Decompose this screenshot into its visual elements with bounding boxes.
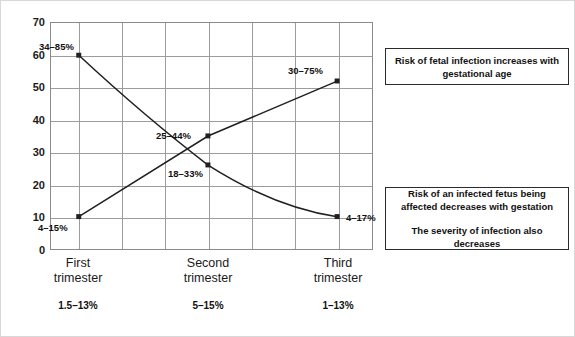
plot-area: 34–85% 25–44% 30–75% 4–15% 18–33% 4–17% xyxy=(50,22,373,250)
marker-rising-second xyxy=(205,133,210,138)
marker-declining-third xyxy=(335,214,340,219)
point-label-rising-first: 4–15% xyxy=(38,223,68,233)
x-category-second: Second trimester 5–15% xyxy=(143,256,273,311)
y-axis: 70 60 50 40 30 20 10 0 xyxy=(1,22,45,250)
annotation-bottom-text-2: The severity of infection also decreases xyxy=(392,224,562,250)
x-category-first-line2: trimester xyxy=(13,271,143,286)
point-label-rising-third: 30–75% xyxy=(288,66,323,76)
y-tick-70: 70 xyxy=(5,17,45,28)
x-category-first: First trimester 1.5–13% xyxy=(13,256,143,311)
point-label-declining-third: 4–17% xyxy=(346,213,376,223)
annotation-top-text: Risk of fetal infection increases with g… xyxy=(392,54,562,80)
point-label-declining-first: 34–85% xyxy=(39,42,74,52)
x-category-second-line2: trimester xyxy=(143,271,273,286)
y-tick-40: 40 xyxy=(5,115,45,126)
y-tick-20: 20 xyxy=(5,180,45,191)
marker-declining-second xyxy=(205,162,210,167)
x-category-third-line1: Third xyxy=(273,256,403,271)
point-label-declining-second: 18–33% xyxy=(168,169,203,179)
series-path-rising xyxy=(79,81,337,217)
y-tick-0: 0 xyxy=(5,245,45,256)
annotation-bottom-text-1: Risk of an infected fetus being affected… xyxy=(392,187,562,213)
x-category-second-line1: Second xyxy=(143,256,273,271)
x-axis: First trimester 1.5–13% Second trimester… xyxy=(50,256,373,331)
x-category-second-sub: 5–15% xyxy=(143,300,273,311)
series-canvas xyxy=(51,23,372,249)
x-category-first-line1: First xyxy=(13,256,143,271)
x-category-first-sub: 1.5–13% xyxy=(13,300,143,311)
x-category-third-sub: 1–13% xyxy=(273,300,403,311)
marker-declining-first xyxy=(76,53,81,58)
y-tick-30: 30 xyxy=(5,147,45,158)
marker-rising-first xyxy=(76,214,81,219)
annotation-box-top: Risk of fetal infection increases with g… xyxy=(385,48,569,85)
y-tick-50: 50 xyxy=(5,82,45,93)
annotation-box-bottom: Risk of an infected fetus being affected… xyxy=(385,187,569,250)
x-category-third: Third trimester 1–13% xyxy=(273,256,403,311)
point-label-rising-second: 25–44% xyxy=(156,131,191,141)
chart-page: 70 60 50 40 30 20 10 0 xyxy=(0,0,575,337)
marker-rising-third xyxy=(335,79,340,84)
x-category-third-line2: trimester xyxy=(273,271,403,286)
